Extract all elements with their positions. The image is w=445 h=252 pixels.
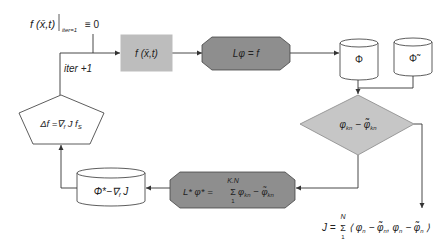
update-pentagon: Δf =∇f J fS [19,95,104,144]
objective-body: ⟨ φn − φ̃n, φn − φ̃n ⟩ [349,221,430,234]
objective-formula: J = N Σ 1 ⟨ φn − φ̃n, φn − φ̃n ⟩ [321,213,430,240]
cylinder-phi-tilde: Φ̃ [394,38,432,76]
source-rect-label: f (x̄,t) [135,48,158,59]
init-f-text: f (x̄,t) [30,18,55,30]
objective-sum-top: N [340,213,346,220]
loop-label: iter +1 [64,63,92,74]
objective-sum-bottom: 1 [341,234,345,240]
solver-label: Lφ = f [233,48,260,59]
cylinder-phi-tilde-top [394,38,432,46]
cylinder-gradient-top [77,168,145,178]
adjoint-sum-top: K.N [227,177,240,184]
flowchart: f (x̄,t) iter=1 ≡ 0 iter +1 f (x̄,t) Lφ … [0,0,445,252]
adjoint-sum: Σ [230,187,236,197]
cylinder-gradient: Φ*−∇f J [77,168,145,206]
adjoint-octagon: L* φ* = K.N Σ 1 φkn − φ̃kn [170,172,295,208]
cylinder-phi: Φ [340,39,378,80]
difference-diamond: φkn − φ̃kn [300,95,414,155]
connector-gradient-to-update [61,145,77,188]
adjoint-lhs: L* φ* = [183,186,213,197]
cylinder-gradient-label: Φ*−∇f J [94,186,130,198]
objective-lhs: J = [321,222,336,233]
cylinder-phi-label: Φ [355,54,363,65]
cylinder-phi-top [340,39,378,47]
source-function-box: f (x̄,t) [121,35,172,71]
pentagon-label: Δf =∇f J fS [39,118,82,130]
connector-diamond-to-adjoint [296,155,358,188]
init-condition-label: f (x̄,t) iter=1 ≡ 0 [30,14,100,33]
objective-sum: Σ [340,223,346,233]
connector-diamond-to-objective [414,124,422,208]
solver-octagon: Lφ = f [202,37,290,70]
init-rhs: ≡ 0 [85,19,100,30]
init-subscript: iter=1 [62,27,77,33]
